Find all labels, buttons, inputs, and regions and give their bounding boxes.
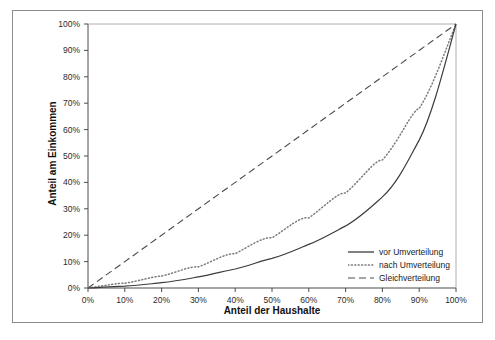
y-axis-title: Anteil am Einkommen	[47, 54, 58, 254]
x-tick-label: 50%	[252, 295, 292, 305]
x-tick-label: 40%	[215, 295, 255, 305]
x-tick-label: 60%	[289, 295, 329, 305]
legend-item-vor-umverteilung[interactable]: vor Umverteilung	[348, 246, 452, 258]
legend-label: Gleichverteilung	[379, 273, 440, 283]
y-tick-marks	[84, 24, 88, 288]
y-tick-label: 100%	[44, 19, 80, 29]
x-tick-label: 30%	[178, 295, 218, 305]
legend-label: vor Umverteilung	[379, 247, 443, 257]
legend-label: nach Umverteilung	[379, 260, 450, 270]
x-tick-label: 20%	[142, 295, 182, 305]
legend-item-gleichverteilung[interactable]: Gleichverteilung	[348, 272, 452, 284]
x-tick-label: 90%	[399, 295, 439, 305]
x-tick-label: 70%	[326, 295, 366, 305]
x-tick-label: 10%	[105, 295, 145, 305]
legend-solid-line-icon	[348, 247, 374, 257]
x-tick-label: 80%	[362, 295, 402, 305]
y-tick-label: 0%	[44, 283, 80, 293]
x-tick-label: 100%	[436, 295, 476, 305]
legend-dotted-line-icon	[348, 260, 374, 270]
x-tick-marks	[88, 288, 456, 292]
x-tick-label: 0%	[68, 295, 108, 305]
lorenz-curve-figure: 100% 90% 80% 70% 60% 50% 40% 30% 20% 10%…	[0, 0, 495, 340]
x-axis-title: Anteil der Haushalte	[88, 305, 456, 316]
y-tick-label: 10%	[44, 257, 80, 267]
chart-legend: vor Umverteilung nach Umverteilung Gleic…	[348, 246, 452, 285]
legend-dashed-line-icon	[348, 273, 374, 283]
legend-item-nach-umverteilung[interactable]: nach Umverteilung	[348, 259, 452, 271]
